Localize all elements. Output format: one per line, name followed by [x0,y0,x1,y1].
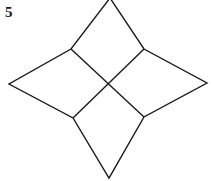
diagram-canvas: 5 [0,0,213,181]
star-diagram [0,0,213,181]
star-outline [9,0,207,178]
